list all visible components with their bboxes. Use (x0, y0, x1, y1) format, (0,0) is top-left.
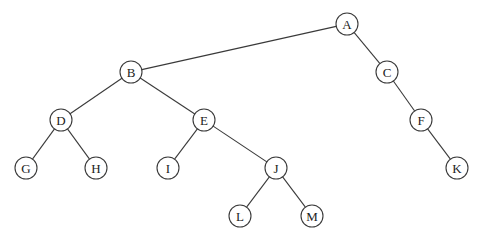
node-label: J (273, 161, 278, 176)
tree-node-k: K (446, 157, 468, 179)
edge-e-i (175, 129, 198, 159)
node-label: E (200, 113, 208, 128)
tree-edges (32, 26, 450, 207)
edge-b-d (70, 78, 122, 114)
edge-a-c (354, 32, 380, 63)
tree-node-j: J (265, 157, 287, 179)
edge-e-j (213, 126, 267, 162)
tree-node-b: B (120, 61, 142, 83)
node-label: B (127, 65, 136, 80)
binary-tree-diagram: ABCDEFGHIJKLM (0, 0, 478, 242)
tree-node-h: H (85, 157, 107, 179)
edge-j-m (283, 177, 306, 207)
tree-node-e: E (193, 109, 215, 131)
tree-node-m: M (301, 205, 323, 227)
node-label: H (91, 161, 100, 176)
node-label: I (166, 161, 170, 176)
edge-b-e (140, 78, 195, 114)
node-label: G (21, 161, 30, 176)
node-label: A (342, 17, 352, 32)
edge-j-l (247, 177, 270, 207)
tree-node-i: I (157, 157, 179, 179)
node-label: F (417, 113, 424, 128)
tree-node-g: G (15, 157, 37, 179)
tree-node-l: L (229, 205, 251, 227)
node-label: L (236, 209, 244, 224)
node-label: K (452, 161, 462, 176)
tree-node-f: F (410, 109, 432, 131)
node-label: D (56, 113, 65, 128)
edge-f-k (428, 129, 451, 159)
node-label: C (383, 65, 392, 80)
tree-node-c: C (376, 61, 398, 83)
edge-d-g (32, 129, 54, 159)
edge-c-f (393, 81, 414, 111)
edge-a-b (142, 26, 337, 69)
tree-nodes: ABCDEFGHIJKLM (15, 13, 468, 227)
tree-node-a: A (336, 13, 358, 35)
node-label: M (306, 209, 318, 224)
tree-node-d: D (50, 109, 72, 131)
edge-d-h (67, 129, 89, 159)
